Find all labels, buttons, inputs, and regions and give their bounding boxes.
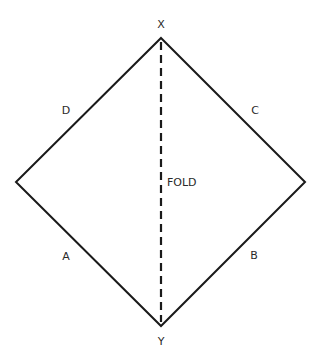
edge-label-b: B bbox=[250, 249, 258, 262]
fold-label: FOLD bbox=[167, 176, 197, 189]
fold-diagram: X Y D C A B FOLD bbox=[0, 0, 324, 360]
vertex-label-y: Y bbox=[157, 335, 165, 348]
vertex-label-x: X bbox=[157, 18, 165, 31]
edge-label-a: A bbox=[62, 250, 70, 263]
edge-label-c: C bbox=[251, 104, 259, 117]
edge-label-d: D bbox=[62, 104, 70, 117]
